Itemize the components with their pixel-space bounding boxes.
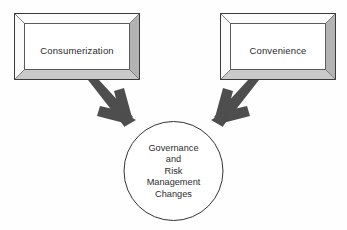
- circle-label-line-2: and: [166, 154, 181, 166]
- box-consumerization-label: Consumerization: [14, 45, 140, 56]
- box-consumerization-bevel-top: [14, 13, 140, 23]
- diagram-canvas: Consumerization Convenience Governance a…: [0, 0, 347, 230]
- box-convenience-bevel-bottom: [220, 70, 336, 80]
- circle-label-line-5: Changes: [155, 189, 192, 201]
- arrow-consumerization-to-circle: [88, 80, 136, 127]
- circle-label-group: Governance and Risk Management Changes: [124, 122, 223, 221]
- circle-label-line-3: Risk: [165, 166, 183, 178]
- circle-label-line-1: Governance: [148, 143, 198, 155]
- arrow-convenience-to-circle: [211, 80, 259, 127]
- box-convenience-label: Convenience: [220, 45, 336, 56]
- box-consumerization-bevel-bottom: [14, 70, 140, 80]
- box-convenience-bevel-top: [220, 13, 336, 23]
- circle-label-line-4: Management: [147, 177, 201, 189]
